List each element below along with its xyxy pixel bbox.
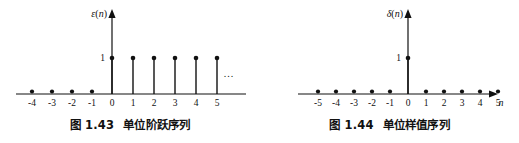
- sample-dot: [388, 89, 392, 93]
- sample-dot: [90, 89, 94, 93]
- x-tick-label: -1: [386, 98, 394, 108]
- sample-dot: [352, 89, 356, 93]
- x-tick-label: -4: [332, 98, 340, 108]
- caption-number: 图 1.43: [70, 118, 115, 132]
- stem-dot: [152, 56, 157, 61]
- x-tick-label: 2: [442, 98, 447, 108]
- plot-unit-impulse: δ(n) n 1: [260, 0, 519, 112]
- sample-dot: [442, 89, 446, 93]
- y-axis-arrow-icon: [108, 9, 115, 18]
- x-tick-label: -4: [28, 98, 36, 108]
- x-tick-label: -5: [314, 98, 322, 108]
- x-tick-label: 3: [173, 98, 178, 108]
- sample-dot: [424, 89, 428, 93]
- sample-dot: [478, 89, 482, 93]
- sample-dot: [50, 89, 54, 93]
- caption-text: 单位阶跃序列: [123, 118, 190, 132]
- x-tick-label: -3: [48, 98, 56, 108]
- stem-dot: [173, 56, 178, 61]
- x-tick-label: 3: [460, 98, 465, 108]
- sample-dot: [70, 89, 74, 93]
- caption-text: 单位样值序列: [383, 118, 450, 132]
- x-tick-label: 2: [152, 98, 157, 108]
- plot-unit-step: ε(n) 1: [0, 0, 260, 112]
- unit-step-chart: ε(n) 1: [0, 0, 260, 112]
- x-tick-label: 5: [496, 98, 501, 108]
- figure-caption: 图 1.44单位样值序列: [260, 116, 519, 132]
- figure-caption: 图 1.43单位阶跃序列: [0, 116, 260, 132]
- x-tick-label: 4: [478, 98, 483, 108]
- stem-dot: [406, 56, 411, 61]
- x-tick-label: -1: [88, 98, 96, 108]
- y-axis-label: ε(n): [91, 8, 107, 20]
- sample-dot: [334, 89, 338, 93]
- unit-tick-label: 1: [100, 53, 105, 63]
- sample-dot: [30, 89, 34, 93]
- sample-dot: [370, 89, 374, 93]
- y-axis-arrow-icon: [404, 9, 411, 18]
- y-axis-label: δ(n): [387, 8, 403, 20]
- unit-tick-label: 1: [396, 53, 401, 63]
- x-tick-label: 4: [194, 98, 199, 108]
- figure-unit-step: ε(n) 1: [0, 0, 260, 143]
- stem-dot: [131, 56, 136, 61]
- x-tick-label: -3: [350, 98, 358, 108]
- sample-dot: [316, 89, 320, 93]
- stem-dot: [215, 56, 220, 61]
- figure-unit-impulse: δ(n) n 1: [260, 0, 519, 143]
- x-tick-label: 5: [215, 98, 220, 108]
- sample-dot: [496, 89, 500, 93]
- x-tick-label: -2: [368, 98, 376, 108]
- caption-number: 图 1.44: [329, 118, 374, 132]
- figure-page: ε(n) 1: [0, 0, 519, 143]
- x-tick-label: 0: [110, 98, 115, 108]
- x-tick-label: 1: [424, 98, 429, 108]
- unit-impulse-chart: δ(n) n 1: [260, 0, 519, 112]
- x-tick-label: 1: [131, 98, 136, 108]
- continuation-ellipsis: ...: [224, 68, 235, 79]
- stem-dot: [110, 56, 115, 61]
- x-tick-label: -2: [68, 98, 76, 108]
- sample-dot: [460, 89, 464, 93]
- x-tick-label: 0: [406, 98, 411, 108]
- stem-dot: [194, 56, 199, 61]
